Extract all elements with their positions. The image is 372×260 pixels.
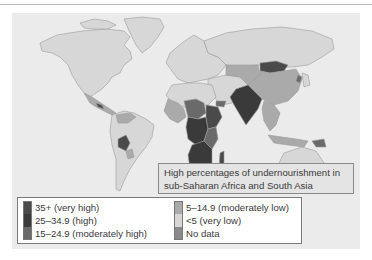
region-east-africa bbox=[206, 105, 222, 129]
region-korea-japan bbox=[302, 73, 310, 87]
region-arctic-islands bbox=[80, 19, 116, 29]
region-central-america bbox=[84, 93, 116, 115]
legend-label: <5 (very low) bbox=[186, 215, 241, 226]
legend-item-high: 25–34.9 (high) bbox=[23, 214, 147, 227]
legend-label: 35+ (very high) bbox=[35, 202, 99, 213]
region-southeast-asia bbox=[262, 101, 280, 131]
callout-line-1: High percentages of undernourishment in bbox=[164, 166, 348, 179]
region-russia bbox=[204, 27, 334, 67]
swatch-high bbox=[23, 214, 32, 227]
swatch-moderately-low bbox=[174, 201, 183, 214]
legend-item-moderately-high: 15–24.9 (moderately high) bbox=[23, 227, 147, 240]
region-greenland bbox=[124, 17, 164, 53]
legend-item-very-low: <5 (very low) bbox=[174, 214, 289, 227]
swatch-very-high bbox=[23, 201, 32, 214]
legend-column-1: 35+ (very high) 25–34.9 (high) 15–24.9 (… bbox=[23, 201, 147, 240]
legend-label: No data bbox=[186, 228, 220, 239]
legend-column-2: 5–14.9 (moderately low) <5 (very low) No… bbox=[174, 201, 289, 240]
legend-item-no-data: No data bbox=[174, 227, 289, 240]
region-png bbox=[312, 139, 326, 147]
legend-label: 25–34.9 (high) bbox=[35, 215, 97, 226]
swatch-no-data bbox=[174, 227, 183, 240]
map-callout: High percentages of undernourishment in … bbox=[158, 163, 354, 194]
callout-line-2: sub-Saharan Africa and South Asia bbox=[164, 179, 348, 192]
region-north-america bbox=[40, 29, 132, 97]
legend-item-very-high: 35+ (very high) bbox=[23, 201, 147, 214]
map-legend: 35+ (very high) 25–34.9 (high) 15–24.9 (… bbox=[17, 197, 302, 244]
legend-label: 15–24.9 (moderately high) bbox=[35, 228, 147, 239]
swatch-moderately-high bbox=[23, 227, 32, 240]
legend-item-moderately-low: 5–14.9 (moderately low) bbox=[174, 201, 289, 214]
legend-label: 5–14.9 (moderately low) bbox=[186, 202, 289, 213]
region-indonesia bbox=[268, 135, 308, 147]
world-map-panel: High percentages of undernourishment in … bbox=[12, 13, 360, 249]
region-yemen bbox=[216, 101, 226, 107]
swatch-very-low bbox=[174, 214, 183, 227]
top-rule bbox=[0, 4, 372, 5]
